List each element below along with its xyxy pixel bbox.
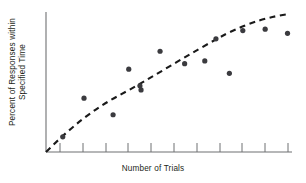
data-point-group [60, 27, 290, 140]
data-point [263, 27, 268, 32]
scatter-plot-canvas [0, 0, 306, 183]
y-axis-title-line-1: Percent of Responses within [8, 2, 18, 142]
data-point [202, 58, 207, 63]
y-axis-title-line-2: Specified Time [18, 2, 28, 142]
data-point [213, 36, 218, 41]
data-point [157, 49, 162, 54]
data-point [138, 87, 143, 92]
x-axis-tick-group [60, 143, 288, 152]
data-point [240, 28, 245, 33]
y-axis-title: Percent of Responses within Specified Ti… [8, 2, 28, 142]
chart-container: Percent of Responses within Specified Ti… [0, 0, 306, 183]
data-point [81, 96, 86, 101]
data-point [60, 134, 65, 139]
x-axis-title: Number of Trials [0, 164, 306, 174]
data-point [110, 112, 115, 117]
data-point [227, 71, 232, 76]
data-point [126, 67, 131, 72]
data-point [182, 61, 187, 66]
trendline-curve [46, 14, 290, 152]
axes-group [46, 12, 292, 152]
data-point [285, 31, 290, 36]
